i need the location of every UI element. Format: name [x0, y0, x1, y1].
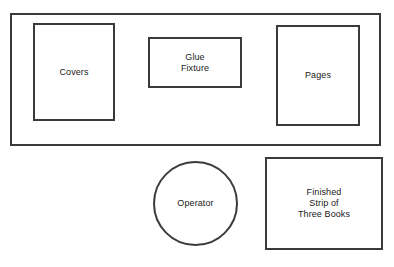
pages-label: Pages: [305, 70, 331, 81]
finished-strip-label: Finished Strip of Three Books: [298, 187, 350, 220]
glue-fixture-label: Glue Fixture: [181, 52, 209, 74]
workstation-layout-diagram: Covers Glue Fixture Pages Operator Finis…: [0, 0, 394, 267]
finished-strip-station: Finished Strip of Three Books: [265, 157, 383, 250]
glue-fixture-station: Glue Fixture: [148, 37, 242, 88]
operator-label: Operator: [177, 198, 213, 209]
covers-label: Covers: [59, 67, 88, 78]
operator-position: Operator: [153, 161, 238, 246]
pages-station: Pages: [276, 25, 360, 126]
covers-station: Covers: [33, 23, 115, 121]
